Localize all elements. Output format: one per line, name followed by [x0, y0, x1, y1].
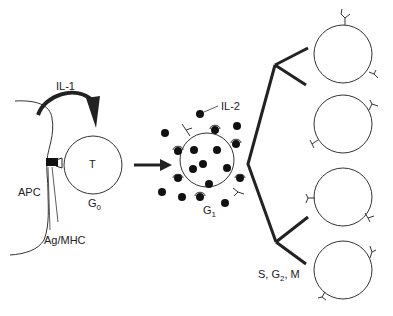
label-g0: G0 — [88, 197, 102, 212]
il2-pointer — [204, 106, 218, 112]
label-cell-cycle-phases: S, G2, M — [258, 268, 300, 283]
ag-mhc-complex — [46, 158, 58, 166]
il1-arrow — [38, 93, 92, 115]
label-il1: IL-1 — [56, 80, 75, 92]
label-g1: G1 — [203, 204, 217, 219]
il1-arrowhead — [86, 96, 100, 128]
daughter-receptors — [306, 9, 378, 300]
ag-mhc-pointer — [52, 167, 58, 222]
apc-membrane — [10, 101, 53, 255]
t-cell-activation-diagram: IL-1 IL-2 APC T G0 G1 Ag/MHC S, G2, M — [0, 0, 393, 316]
label-il2: IL-2 — [221, 100, 240, 112]
label-apc: APC — [18, 186, 41, 198]
label-t-cell: T — [89, 158, 96, 170]
proliferation-branches — [248, 48, 308, 264]
label-ag-mhc: Ag/MHC — [44, 234, 86, 246]
daughter-cells — [314, 25, 372, 299]
t-cell-g1 — [180, 133, 234, 187]
